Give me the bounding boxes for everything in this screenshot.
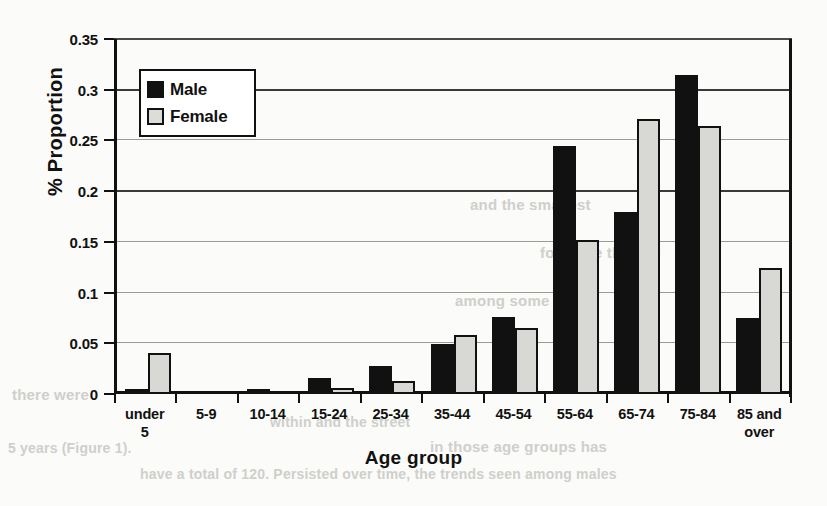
bar-female [148, 353, 171, 394]
x-axis-tick [667, 394, 669, 403]
bar-male [308, 378, 331, 394]
legend-swatch-male [147, 81, 164, 98]
x-axis-tick-label: 25-34 [360, 405, 421, 441]
x-axis-tick [298, 394, 300, 403]
chart-legend: Male Female [139, 69, 256, 137]
x-axis-tick [175, 394, 177, 403]
bar-group [484, 39, 545, 394]
legend-label-female: Female [170, 107, 227, 127]
x-axis-tick-label: 65-74 [606, 405, 667, 441]
x-axis-tick-label: 45-54 [483, 405, 544, 441]
x-axis-ticks [114, 394, 792, 403]
bar-group [545, 39, 606, 394]
y-axis-tick-label: 0.15 [70, 233, 98, 250]
x-axis-tick [421, 394, 423, 403]
bar-group [362, 39, 423, 394]
bar-female [698, 126, 721, 394]
x-axis-tick-label: 10-14 [237, 405, 298, 441]
y-axis-tick-label: 0.05 [70, 335, 98, 352]
legend-item-male: Male [147, 76, 248, 103]
bar-male [431, 344, 454, 394]
x-axis-tick-labels: under55-910-1415-2425-3435-4445-5455-646… [114, 405, 790, 441]
bar-female [392, 381, 415, 394]
legend-item-female: Female [147, 103, 248, 130]
bar-male [614, 212, 637, 394]
x-axis-tick-label: 75-84 [667, 405, 728, 441]
bar-group [301, 39, 362, 394]
x-axis-tick [360, 394, 362, 403]
y-axis-tick-label: 0 [90, 386, 98, 403]
y-axis-tick-label: 0.35 [70, 31, 98, 48]
bar-female [454, 335, 477, 394]
bar-group [729, 39, 790, 394]
bar-female [576, 240, 599, 394]
x-axis-tick [544, 394, 546, 403]
x-axis-tick-label: 55-64 [544, 405, 605, 441]
y-axis-title: % Proportion [44, 17, 67, 247]
y-axis-tick-label: 0.25 [70, 132, 98, 149]
x-axis-tick [790, 394, 792, 403]
bar-group [607, 39, 668, 394]
bar-male [369, 366, 392, 394]
x-axis-tick-label: 35-44 [421, 405, 482, 441]
bar-male [675, 75, 698, 395]
bar-male [492, 317, 515, 394]
x-axis-tick-label: under5 [114, 405, 175, 441]
x-axis-tick-label: 5-9 [175, 405, 236, 441]
bar-female [637, 119, 660, 394]
x-axis-tick-label: 15-24 [298, 405, 359, 441]
x-axis-tick [729, 394, 731, 403]
bar-male [553, 146, 576, 395]
x-axis-tick-label: 85 andover [729, 405, 790, 441]
bar-female [515, 328, 538, 394]
bar-group [423, 39, 484, 394]
x-axis-tick [114, 394, 116, 403]
x-axis-tick [237, 394, 239, 403]
y-axis-tick-label: 0.3 [78, 81, 98, 98]
y-axis-tick-label: 0.1 [78, 284, 98, 301]
x-axis-tick [606, 394, 608, 403]
legend-label-male: Male [170, 80, 207, 100]
x-axis-tick [483, 394, 485, 403]
bar-female [759, 268, 782, 394]
x-axis-title: Age group [0, 447, 827, 469]
legend-swatch-female [147, 108, 164, 125]
bar-male [736, 318, 759, 394]
bar-group [668, 39, 729, 394]
bar-chart: % Proportion 0.350.30.250.20.150.10.050 … [0, 0, 827, 506]
y-axis-tick-label: 0.2 [78, 183, 98, 200]
